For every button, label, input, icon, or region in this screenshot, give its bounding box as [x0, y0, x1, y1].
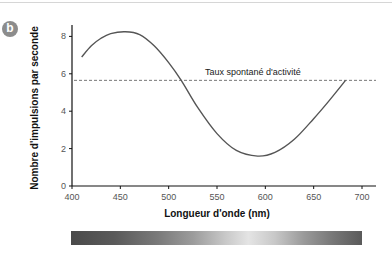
x-tick-label: 400: [64, 192, 79, 202]
x-tick-label: 450: [113, 192, 128, 202]
x-tick-label: 600: [258, 192, 273, 202]
chart: 40045050055060065070002468 Taux spontané…: [0, 0, 392, 260]
wavelength-spectrum-bar: [71, 231, 362, 245]
y-tick-label: 4: [61, 106, 66, 116]
y-tick-label: 0: [61, 181, 66, 191]
y-tick-label: 6: [61, 69, 66, 79]
spontaneous-rate-label: Taux spontané d'activité: [205, 67, 301, 77]
x-tick-label: 650: [306, 192, 321, 202]
y-axis-title: Nombre d'impulsions par seconde: [29, 26, 40, 190]
response-curve: [82, 32, 346, 156]
x-tick-label: 700: [354, 192, 369, 202]
y-tick-label: 2: [61, 144, 66, 154]
x-tick-label: 550: [209, 192, 224, 202]
x-axis-title: Longueur d'onde (nm): [164, 208, 270, 219]
x-tick-label: 500: [161, 192, 176, 202]
y-tick-label: 8: [61, 31, 66, 41]
axes: 40045050055060065070002468: [61, 25, 376, 202]
